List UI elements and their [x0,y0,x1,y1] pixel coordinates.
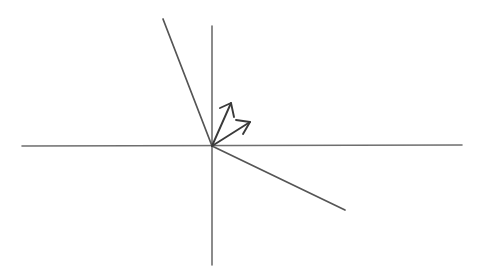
shallow-line [212,146,345,210]
steep-line [163,19,212,146]
vector-diagram-canvas [0,0,486,278]
horizontal-axis [22,145,462,146]
vector-diagram-svg [0,0,486,278]
